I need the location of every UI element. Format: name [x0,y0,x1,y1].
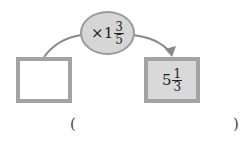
operator-symbol: × [91,24,104,42]
output-box: 5 1 3 [144,57,200,103]
answer-open-paren: ( [70,115,76,133]
operator-fraction: 3 5 [114,21,124,46]
operator-oval: × 1 3 5 [80,11,135,55]
output-fraction: 1 3 [172,68,182,93]
input-box[interactable] [16,57,72,103]
answer-close-paren: ) [233,115,239,133]
output-whole: 5 [162,71,172,89]
operator-whole: 1 [104,24,114,42]
